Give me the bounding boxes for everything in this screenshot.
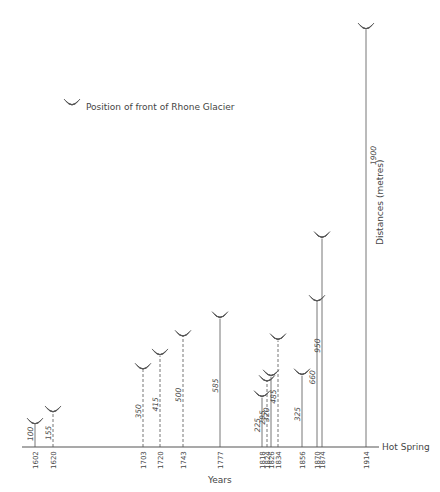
legend: Position of front of Rhone Glacier [64, 99, 235, 112]
glacier-front-icon [135, 363, 151, 369]
value-label: 500 [174, 388, 183, 403]
glacier-front-icon [309, 295, 325, 301]
glacier-front-icon [45, 406, 61, 412]
value-label: 660 [308, 370, 317, 385]
glacier-front-icon [254, 391, 270, 397]
year-label: 1743 [180, 451, 188, 469]
glacier-front-icon [27, 418, 43, 424]
year-label: 1856 [299, 451, 307, 469]
glacier-front-icon [270, 334, 286, 340]
bars: 1602100162015517033501720415174350017775… [26, 23, 378, 469]
value-label: 325 [293, 407, 302, 422]
glacier-front-icon [259, 375, 275, 381]
year-label: 1777 [217, 451, 225, 469]
glacier-front-icon [152, 349, 168, 355]
glacier-front-icon [212, 312, 228, 318]
value-label: 950 [313, 338, 322, 353]
glacier-chart: Position of front of Rhone Glacier 16021… [0, 0, 440, 492]
year-label: 1720 [157, 451, 165, 469]
year-label: 1874 [319, 451, 327, 469]
x-axis-title: Years [207, 475, 232, 485]
value-label: 415 [151, 397, 160, 412]
glacier-front-icon [358, 23, 374, 29]
value-label: 350 [134, 404, 143, 419]
glacier-front-icon [314, 232, 330, 238]
year-label: 1602 [32, 451, 40, 469]
value-label: 585 [211, 378, 220, 393]
value-label: 485 [269, 389, 278, 404]
y-axis-title: Distances (metres) [375, 160, 385, 246]
year-label: 1914 [363, 451, 371, 469]
year-label: 1834 [275, 451, 283, 469]
year-label: 1620 [50, 451, 58, 469]
baseline-label: Hot Spring [382, 442, 430, 452]
value-label: 155 [44, 425, 53, 440]
glacier-front-icon [175, 330, 191, 336]
year-label: 1703 [140, 451, 148, 469]
glacier-front-icon [263, 370, 279, 376]
value-label: 320 [262, 407, 271, 422]
value-label: 100 [26, 426, 35, 441]
glacier-front-icon [64, 99, 80, 105]
legend-label: Position of front of Rhone Glacier [86, 102, 235, 112]
